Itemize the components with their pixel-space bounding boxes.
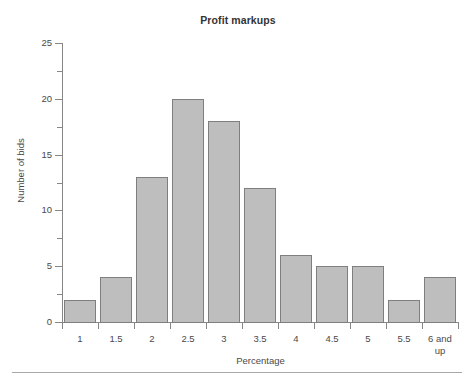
- bar: [316, 266, 349, 323]
- y-tick-minor: [57, 183, 62, 184]
- x-tick: [62, 322, 63, 329]
- y-axis-line: [62, 43, 63, 323]
- x-tick: [386, 322, 387, 329]
- x-tick-label: 3.5: [242, 333, 278, 345]
- y-tick-label: 25: [12, 38, 52, 48]
- chart-figure: Profit markups 0510152025 11.522.533.544…: [0, 0, 476, 387]
- x-tick-label: 5.5: [386, 333, 422, 345]
- x-tick-label: 2: [134, 333, 170, 345]
- y-tick-minor: [57, 127, 62, 128]
- y-tick-minor: [57, 238, 62, 239]
- x-tick: [458, 322, 459, 329]
- bar: [136, 177, 169, 323]
- y-tick-label: 20: [12, 94, 52, 104]
- y-tick-minor: [57, 294, 62, 295]
- y-tick-major: [55, 99, 62, 100]
- y-tick-label: 0: [12, 317, 52, 327]
- bar: [388, 300, 421, 323]
- x-tick: [98, 322, 99, 329]
- x-tick: [314, 322, 315, 329]
- y-tick-label: 5: [12, 261, 52, 271]
- y-axis-title: Number of bids: [15, 111, 26, 231]
- y-tick-major: [55, 322, 62, 323]
- x-tick-label: 1: [62, 333, 98, 345]
- x-tick: [134, 322, 135, 329]
- x-tick: [206, 322, 207, 329]
- bar: [64, 300, 97, 323]
- x-tick: [170, 322, 171, 329]
- x-tick-label: 4: [278, 333, 314, 345]
- x-tick-label: 6 and up: [422, 333, 458, 356]
- bar: [208, 121, 241, 323]
- x-tick-label: 2.5: [170, 333, 206, 345]
- x-tick-label: 4.5: [314, 333, 350, 345]
- x-tick: [242, 322, 243, 329]
- y-tick-major: [55, 266, 62, 267]
- bar: [172, 99, 205, 323]
- x-tick: [422, 322, 423, 329]
- bar: [244, 188, 277, 323]
- bar: [352, 266, 385, 323]
- plot-area: 0510152025 11.522.533.544.555.56 and up: [0, 0, 476, 387]
- x-tick: [278, 322, 279, 329]
- x-tick-label: 5: [350, 333, 386, 345]
- x-axis-title: Percentage: [62, 355, 459, 366]
- y-tick-major: [55, 43, 62, 44]
- bar: [100, 277, 133, 323]
- x-tick-label: 3: [206, 333, 242, 345]
- bottom-divider: [12, 372, 462, 373]
- y-tick-minor: [57, 71, 62, 72]
- x-tick-label: 1.5: [98, 333, 134, 345]
- y-tick-major: [55, 210, 62, 211]
- bar: [424, 277, 457, 323]
- bar: [280, 255, 313, 323]
- x-tick: [350, 322, 351, 329]
- y-tick-major: [55, 155, 62, 156]
